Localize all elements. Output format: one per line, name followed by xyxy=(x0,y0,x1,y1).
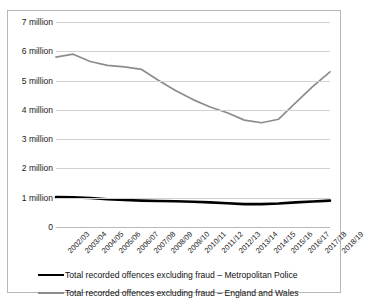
legend-label: Total recorded offences excluding fraud … xyxy=(65,270,298,280)
gridline xyxy=(56,110,330,111)
x-axis-line xyxy=(56,227,330,228)
gridline xyxy=(56,198,330,199)
y-axis-tick-label: 4 million xyxy=(22,106,53,115)
gridline xyxy=(56,51,330,52)
plot-area xyxy=(56,22,330,227)
legend-line-swatch xyxy=(38,292,64,294)
legend-label: Total recorded offences excluding fraud … xyxy=(65,288,299,298)
legend-line-swatch xyxy=(38,274,64,277)
gridline xyxy=(56,81,330,82)
legend-item[interactable]: Total recorded offences excluding fraud … xyxy=(38,284,338,302)
series-lines xyxy=(56,22,330,227)
y-axis-tick-label: 6 million xyxy=(22,47,53,56)
y-axis-tick-label: 1 million xyxy=(22,193,53,202)
y-axis-tick-labels: 01 million2 million3 million4 million5 m… xyxy=(8,22,53,227)
y-axis-tick-label: 5 million xyxy=(22,76,53,85)
series-line xyxy=(56,54,330,123)
x-axis-tick-labels: 2002/032003/042004/052005/062006/072007/… xyxy=(56,229,330,269)
gridline xyxy=(56,22,330,23)
chart-figure: 01 million2 million3 million4 million5 m… xyxy=(7,10,341,293)
gridline xyxy=(56,139,330,140)
y-axis-tick-label: 7 million xyxy=(22,18,53,27)
y-axis-tick-label: 0 xyxy=(48,223,53,232)
legend-item[interactable]: Total recorded offences excluding fraud … xyxy=(38,266,338,284)
y-axis-tick-label: 3 million xyxy=(22,135,53,144)
y-axis-tick-label: 2 million xyxy=(22,164,53,173)
chart-legend: Total recorded offences excluding fraud … xyxy=(38,266,338,302)
gridline xyxy=(56,168,330,169)
